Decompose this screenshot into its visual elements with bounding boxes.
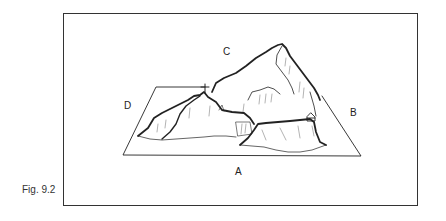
label-a: A bbox=[235, 166, 242, 177]
mountain-diagram bbox=[0, 0, 446, 221]
summit-cross-icon bbox=[201, 84, 209, 93]
label-d: D bbox=[124, 100, 131, 111]
left-mountain bbox=[138, 92, 254, 140]
label-b: B bbox=[350, 107, 357, 118]
label-c: C bbox=[223, 46, 230, 57]
